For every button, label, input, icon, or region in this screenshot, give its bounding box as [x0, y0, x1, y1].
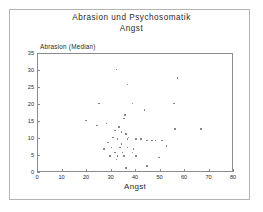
scatter-point — [133, 148, 135, 150]
y-tick-mark — [37, 155, 40, 156]
x-tick-label: 70 — [202, 174, 216, 180]
scatter-point — [117, 138, 119, 140]
scatter-point — [146, 165, 148, 167]
scatter-point — [107, 142, 109, 144]
scatter-point — [121, 143, 123, 145]
scatter-point — [114, 130, 116, 132]
scatter-point — [119, 147, 121, 149]
y-tick-label: 5 — [31, 152, 34, 158]
y-tick-label: 35 — [28, 50, 34, 56]
scatter-point — [116, 69, 118, 71]
scatter-point — [114, 152, 116, 154]
scatter-point — [124, 114, 126, 116]
scatter-point — [144, 109, 146, 111]
figure-canvas: Abrasion und Psychosomatik Angst Abrasio… — [0, 0, 263, 212]
scatter-point — [111, 147, 113, 149]
y-tick-mark — [37, 53, 40, 54]
scatter-point — [127, 138, 129, 140]
scatter-point — [174, 128, 176, 130]
x-tick-mark — [135, 169, 136, 172]
y-tick-mark — [37, 70, 40, 71]
y-tick-label: 25 — [28, 84, 34, 90]
y-axis-label: Abrasion (Median) — [40, 43, 96, 50]
x-tick-label: 40 — [128, 174, 142, 180]
scatter-point — [146, 140, 148, 142]
scatter-point — [96, 125, 98, 127]
scatter-point — [135, 155, 137, 157]
scatter-point — [127, 147, 129, 149]
scatter-point — [128, 137, 130, 139]
scatter-point — [118, 126, 120, 128]
y-tick-mark — [37, 138, 40, 139]
scatter-point — [109, 155, 111, 157]
scatter-point — [200, 128, 202, 130]
chart-title-line-1: Abrasion und Psychosomatik — [0, 12, 263, 23]
plot-area — [37, 53, 233, 172]
x-tick-label: 80 — [226, 174, 240, 180]
scatter-point — [123, 118, 125, 120]
x-tick-label: 10 — [55, 174, 69, 180]
y-tick-label: 30 — [28, 67, 34, 73]
x-tick-label: 20 — [79, 174, 93, 180]
x-tick-mark — [233, 169, 234, 172]
x-tick-label: 60 — [177, 174, 191, 180]
x-tick-mark — [209, 169, 210, 172]
scatter-point — [161, 140, 163, 142]
scatter-point — [125, 167, 127, 169]
y-tick-label: 10 — [28, 135, 34, 141]
scatter-point — [116, 159, 118, 161]
x-tick-mark — [184, 169, 185, 172]
y-tick-label: 20 — [28, 101, 34, 107]
y-axis-tick-labels: 05101520253035 — [18, 0, 34, 212]
y-tick-mark — [37, 104, 40, 105]
x-axis-label: Angst — [37, 182, 233, 191]
y-tick-mark — [37, 121, 40, 122]
scatter-point — [125, 133, 127, 135]
scatter-point — [135, 138, 137, 140]
y-tick-mark — [37, 87, 40, 88]
scatter-point — [173, 103, 175, 105]
scatter-point — [139, 171, 141, 173]
scatter-point — [177, 77, 179, 79]
x-tick-label: 50 — [153, 174, 167, 180]
x-tick-mark — [62, 169, 63, 172]
scatter-point — [123, 155, 125, 157]
x-tick-mark — [111, 169, 112, 172]
scatter-point — [122, 152, 124, 154]
y-tick-mark — [37, 172, 40, 173]
scatter-point — [85, 120, 87, 122]
x-tick-label: 30 — [104, 174, 118, 180]
scatter-point — [158, 157, 160, 159]
y-tick-label: 15 — [28, 118, 34, 124]
scatter-point — [150, 171, 152, 173]
scatter-point — [132, 152, 134, 154]
scatter-point — [166, 145, 168, 147]
x-tick-mark — [160, 169, 161, 172]
x-tick-mark — [37, 169, 38, 172]
scatter-point — [106, 123, 108, 125]
scatter-point — [103, 148, 105, 150]
scatter-point — [155, 140, 157, 142]
chart-title: Abrasion und Psychosomatik Angst — [0, 12, 263, 34]
scatter-point — [117, 155, 119, 157]
scatter-point — [121, 131, 123, 133]
x-tick-mark — [86, 169, 87, 172]
scatter-point — [98, 103, 100, 105]
scatter-point — [140, 138, 142, 140]
scatter-point — [151, 140, 153, 142]
chart-title-line-2: Angst — [0, 23, 263, 34]
scatter-point — [112, 137, 114, 139]
scatter-point — [127, 84, 129, 86]
scatter-point — [132, 103, 134, 105]
x-tick-label: 0 — [30, 174, 44, 180]
